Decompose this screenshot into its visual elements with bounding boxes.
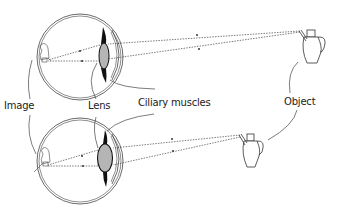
object-jug-near-icon	[239, 134, 263, 167]
retina-image-icon	[34, 148, 50, 173]
label-lens: Lens	[88, 100, 110, 111]
lens-thin	[99, 43, 109, 69]
bottom-eye	[34, 118, 240, 204]
ciliary-muscle-icon	[101, 27, 106, 44]
lens-thick	[98, 144, 113, 172]
top-eye	[37, 14, 300, 100]
label-ciliary-muscles: Ciliary muscles	[138, 97, 211, 108]
label-image: Image	[4, 100, 34, 111]
object-jug-far-icon	[299, 30, 325, 63]
retina-image-icon	[40, 44, 51, 63]
label-object: Object	[284, 96, 315, 107]
